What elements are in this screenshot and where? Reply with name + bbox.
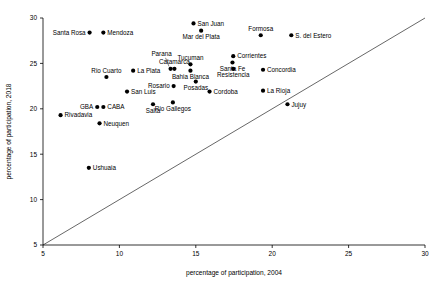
data-point-label: Rio Cuarto	[91, 67, 122, 74]
data-point-marker	[188, 62, 192, 66]
data-point-marker	[101, 105, 105, 109]
data-point-label: Cordoba	[214, 88, 239, 95]
data-point-label: S. del Estero	[295, 32, 332, 39]
data-point-label: Mendoza	[107, 29, 133, 36]
reference-line-group	[43, 18, 425, 245]
x-tick-label: 5	[41, 250, 45, 257]
data-point-label: Rivadavia	[65, 111, 93, 118]
data-point-marker	[125, 89, 129, 93]
identity-reference-line	[43, 18, 425, 245]
data-point-marker	[58, 113, 62, 117]
data-point-label: Ushuaia	[93, 164, 117, 171]
data-point-label: Bahia Blanca	[172, 73, 210, 80]
x-axis-ticks: 51015202530	[41, 245, 429, 257]
data-point-marker	[104, 75, 108, 79]
data-point-label: Santa Rosa	[53, 29, 86, 36]
data-point-marker	[231, 54, 235, 58]
data-point-label: Rio Gallegos	[155, 105, 191, 113]
data-point-marker	[101, 30, 105, 34]
y-tick-label: 10	[30, 196, 38, 203]
data-point-marker	[289, 33, 293, 37]
x-axis-title: percentage of participation, 2004	[186, 269, 282, 277]
x-tick-label: 25	[345, 250, 353, 257]
data-point-label: Neuquen	[104, 120, 130, 128]
data-point-label: Corrientes	[237, 52, 266, 59]
data-point-label: Formosa	[248, 25, 273, 32]
y-tick-label: 15	[30, 151, 38, 158]
data-point-label: Tucuman	[177, 54, 204, 61]
data-point-marker	[87, 166, 91, 170]
data-point-marker	[172, 84, 176, 88]
data-point-label: Mar del Plata	[183, 33, 221, 40]
data-point-label: CABA	[107, 103, 125, 110]
chart-canvas: 51015202530 51015202530 Santa RosaMendoz…	[0, 0, 443, 283]
data-points-group: Santa RosaMendozaSan JuanMar del PlataFo…	[53, 20, 332, 171]
data-point-label: Parana	[151, 50, 172, 57]
data-point-marker	[131, 69, 135, 73]
data-point-marker	[261, 68, 265, 72]
data-point-label: Posadas	[184, 84, 209, 91]
data-point-label: Concordia	[267, 66, 296, 73]
data-point-label: Jujuy	[291, 101, 307, 109]
data-point-label: La Plata	[137, 67, 161, 74]
data-point-marker	[97, 121, 101, 125]
data-point-label: San Juan	[198, 20, 225, 27]
y-tick-label: 20	[30, 105, 38, 112]
y-axis-ticks: 51015202530	[30, 14, 43, 248]
data-point-marker	[191, 21, 195, 25]
scatter-chart: 51015202530 51015202530 Santa RosaMendoz…	[0, 0, 443, 283]
x-tick-label: 30	[421, 250, 429, 257]
y-tick-label: 30	[30, 14, 38, 21]
data-point-marker	[259, 33, 263, 37]
y-tick-label: 25	[30, 60, 38, 67]
data-point-label: La Rioja	[267, 87, 291, 95]
data-point-marker	[207, 89, 211, 93]
data-point-label: San Luis	[131, 88, 156, 95]
y-tick-label: 5	[33, 241, 37, 248]
y-axis-title: percentage of participation, 2018	[5, 83, 13, 179]
data-point-label: Resistencia	[217, 71, 250, 78]
data-point-label: GBA	[80, 103, 94, 110]
data-point-marker	[88, 30, 92, 34]
data-point-marker	[168, 67, 172, 71]
data-point-marker	[261, 89, 265, 93]
x-tick-label: 15	[192, 250, 200, 257]
data-point-marker	[285, 102, 289, 106]
x-tick-label: 20	[269, 250, 277, 257]
x-tick-label: 10	[116, 250, 124, 257]
data-point-marker	[95, 105, 99, 109]
data-point-marker	[172, 67, 176, 71]
